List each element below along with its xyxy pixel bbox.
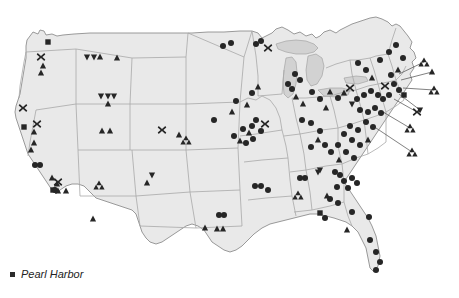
- circle-marker: [308, 144, 314, 150]
- triangle-up-marker: [63, 188, 69, 194]
- circle-marker: [243, 140, 249, 146]
- circle-marker: [386, 49, 392, 55]
- circle-marker: [265, 187, 271, 193]
- circle-marker: [391, 81, 397, 87]
- circle-marker: [373, 249, 379, 255]
- circle-marker: [240, 126, 246, 132]
- land-layer: [15, 17, 416, 272]
- circle-marker: [354, 180, 360, 186]
- circle-marker: [289, 86, 295, 92]
- circle-marker: [292, 71, 298, 77]
- circle-marker: [258, 38, 264, 44]
- circle-marker: [363, 67, 369, 73]
- legend: Pearl Harbor: [10, 266, 83, 282]
- circle-marker: [375, 92, 381, 98]
- circle-marker: [308, 120, 314, 126]
- square-marker: [21, 124, 26, 129]
- callout-leader-line: [403, 88, 434, 90]
- circle-marker: [373, 267, 379, 273]
- trefoil-cluster-marker: [404, 123, 415, 132]
- circle-marker: [351, 155, 357, 161]
- circle-marker: [365, 109, 371, 115]
- circle-marker: [322, 215, 328, 221]
- circle-marker: [377, 57, 383, 63]
- circle-marker: [253, 117, 259, 123]
- circle-marker: [400, 55, 406, 61]
- circle-marker: [335, 142, 341, 148]
- circle-marker: [299, 117, 305, 123]
- circle-marker: [220, 43, 226, 49]
- circle-marker: [357, 142, 363, 148]
- distribution-map-figure: Pearl Harbor: [0, 0, 459, 298]
- circle-marker: [357, 107, 363, 113]
- circle-marker: [285, 81, 291, 87]
- circle-marker: [309, 89, 315, 95]
- circle-marker: [354, 96, 360, 102]
- legend-label: Pearl Harbor: [21, 268, 83, 280]
- square-marker: [45, 39, 50, 44]
- circle-marker: [367, 237, 373, 243]
- circle-marker: [341, 178, 347, 184]
- circle-marker: [372, 105, 378, 111]
- circle-marker: [341, 131, 347, 137]
- circle-marker: [393, 42, 399, 48]
- trefoil-cluster-marker: [406, 147, 417, 156]
- circle-marker: [332, 169, 338, 175]
- circle-marker: [221, 212, 227, 218]
- circle-marker: [249, 90, 255, 96]
- triangle-up-marker: [344, 227, 350, 233]
- us-landmass: [15, 17, 416, 272]
- circle-marker: [37, 162, 43, 168]
- circle-marker: [349, 137, 355, 143]
- circle-marker: [396, 87, 402, 93]
- circle-marker: [327, 196, 333, 202]
- circle-marker: [233, 98, 239, 104]
- circle-marker: [258, 183, 264, 189]
- circle-marker: [297, 77, 303, 83]
- circle-marker: [317, 128, 323, 134]
- circle-marker: [253, 41, 259, 47]
- square-marker: [317, 210, 322, 215]
- circle-marker: [211, 117, 217, 123]
- circle-marker: [368, 88, 374, 94]
- circle-marker: [349, 175, 355, 181]
- circle-marker: [366, 214, 372, 220]
- circle-marker: [322, 142, 328, 148]
- triangle-up-marker: [90, 216, 96, 222]
- us-map: [0, 0, 459, 298]
- circle-marker: [231, 133, 237, 139]
- circle-marker: [337, 172, 343, 178]
- circle-marker: [335, 200, 341, 206]
- circle-marker: [328, 149, 334, 155]
- circle-marker: [377, 259, 383, 265]
- circle-marker: [252, 183, 258, 189]
- legend-swatch-square: [10, 272, 15, 277]
- circle-marker: [345, 185, 351, 191]
- circle-marker: [380, 96, 386, 102]
- circle-marker: [349, 209, 355, 215]
- circle-marker: [355, 60, 361, 66]
- circle-marker: [335, 95, 341, 101]
- circle-marker: [302, 175, 308, 181]
- circle-marker: [386, 92, 392, 98]
- circle-marker: [258, 128, 264, 134]
- circle-marker: [347, 123, 353, 129]
- triangle-up-marker: [429, 69, 435, 75]
- circle-marker: [228, 40, 234, 46]
- circle-marker: [249, 123, 255, 129]
- circle-marker: [388, 72, 394, 78]
- callout-leader-line: [383, 112, 410, 128]
- circle-marker: [250, 136, 256, 142]
- circle-marker: [317, 96, 323, 102]
- circle-marker: [361, 92, 367, 98]
- trefoil-cluster-marker: [418, 57, 429, 66]
- circle-marker: [355, 127, 361, 133]
- circle-marker: [343, 149, 349, 155]
- circle-marker: [334, 184, 340, 190]
- circle-marker: [378, 110, 384, 116]
- circle-marker: [363, 119, 369, 125]
- circle-marker: [370, 124, 376, 130]
- square-marker: [401, 92, 406, 97]
